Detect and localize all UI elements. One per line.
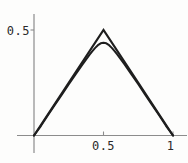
x-tick-label-0.5: 0.5: [92, 139, 115, 153]
smooth-approximation-curve: [34, 43, 173, 136]
chart-canvas: 0.5 0.5 1: [0, 0, 188, 163]
x-tick-label-1: 1: [167, 139, 175, 153]
y-tick-label-0.5: 0.5: [7, 24, 30, 38]
chart-figure: 0.5 0.5 1: [0, 0, 188, 163]
tent-function-curve: [34, 30, 173, 136]
